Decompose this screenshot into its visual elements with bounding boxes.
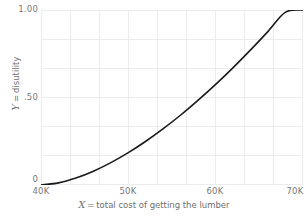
y-axis-description: disutility: [11, 57, 21, 93]
y-axis-variable: Y: [10, 104, 21, 110]
curve-path: [41, 10, 303, 185]
y-tick-label-1-00: 1.00: [10, 4, 38, 14]
x-axis-equals: =: [85, 200, 96, 210]
x-tick-label-70k: 70K: [278, 186, 308, 196]
y-axis-title: Y=disutility: [10, 34, 21, 134]
x-axis-description: total cost of getting the lumber: [96, 200, 229, 210]
x-tick-label-60k: 60K: [198, 186, 232, 196]
y-axis-equals: =: [11, 93, 21, 104]
chart-container: 1.00 .50 0 40K 50K 60K 70K X=total cost …: [0, 0, 308, 217]
x-tick-label-50k: 50K: [111, 186, 145, 196]
x-axis-title: X=total cost of getting the lumber: [0, 199, 308, 210]
plot-area: [41, 10, 303, 185]
disutility-curve: [41, 10, 303, 185]
y-tick-label-0: 0: [10, 174, 38, 184]
x-tick-label-40k: 40K: [24, 186, 58, 196]
